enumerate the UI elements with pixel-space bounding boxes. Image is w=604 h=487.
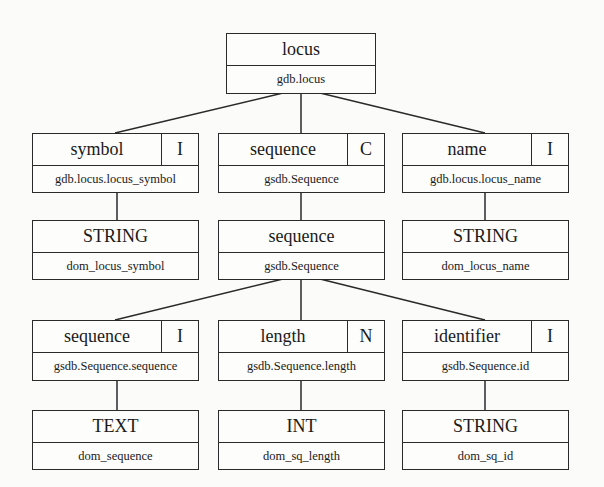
node-title: STRING — [403, 221, 568, 252]
node-kind-badge: I — [161, 321, 198, 352]
node-title: symbol — [33, 134, 161, 165]
node-kind-badge: N — [347, 321, 384, 352]
node-title: STRING — [403, 411, 568, 442]
node-symbol-domain: STRING dom_locus_symbol — [32, 220, 199, 280]
node-seq-identifier: identifier I gsdb.Sequence.id — [402, 320, 569, 381]
node-source: gsdb.Sequence.id — [403, 353, 568, 380]
node-title: TEXT — [33, 411, 198, 442]
node-source: gsdb.Sequence.length — [219, 353, 384, 380]
edge-class-id — [320, 279, 485, 320]
edge-root-symbol — [115, 93, 283, 133]
node-title: sequence — [219, 221, 384, 252]
node-seq-sequence: sequence I gsdb.Sequence.sequence — [32, 320, 199, 381]
node-source: dom_sequence — [33, 443, 198, 469]
node-kind-badge: C — [347, 134, 384, 165]
node-title: INT — [219, 411, 384, 442]
node-title: locus — [227, 34, 375, 65]
node-sequence-class: sequence gsdb.Sequence — [218, 220, 385, 280]
node-kind-badge: I — [531, 321, 568, 352]
edge-class-seq — [115, 279, 283, 320]
node-kind-badge: I — [531, 134, 568, 165]
node-source: dom_sq_id — [403, 443, 568, 469]
edge-root-name — [320, 93, 485, 133]
node-name-domain: STRING dom_locus_name — [402, 220, 569, 280]
node-source: gsdb.Sequence.sequence — [33, 353, 198, 380]
node-source: dom_locus_name — [403, 253, 568, 279]
node-source: dom_locus_symbol — [33, 253, 198, 279]
node-source: gdb.locus — [227, 66, 375, 93]
node-source: gdb.locus.locus_name — [403, 166, 568, 192]
node-seq-length-domain: INT dom_sq_length — [218, 410, 385, 470]
node-source: gsdb.Sequence — [219, 253, 384, 279]
node-title: sequence — [219, 134, 347, 165]
node-kind-badge: I — [161, 134, 198, 165]
node-locus: locus gdb.locus — [226, 33, 376, 94]
node-source: dom_sq_length — [219, 443, 384, 469]
node-seq-length: length N gsdb.Sequence.length — [218, 320, 385, 381]
node-sequence-c: sequence C gsdb.Sequence — [218, 133, 385, 193]
node-name: name I gdb.locus.locus_name — [402, 133, 569, 193]
node-title: STRING — [33, 221, 198, 252]
node-title: sequence — [33, 321, 161, 352]
node-seq-sequence-domain: TEXT dom_sequence — [32, 410, 199, 470]
node-seq-identifier-domain: STRING dom_sq_id — [402, 410, 569, 470]
node-title: identifier — [403, 321, 531, 352]
node-source: gdb.locus.locus_symbol — [33, 166, 198, 192]
node-symbol: symbol I gdb.locus.locus_symbol — [32, 133, 199, 193]
node-source: gsdb.Sequence — [219, 166, 384, 192]
node-title: name — [403, 134, 531, 165]
node-title: length — [219, 321, 347, 352]
